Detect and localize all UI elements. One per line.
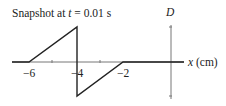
- chart-title: Snapshot at t = 0.01 s: [12, 7, 112, 20]
- x-tick-label-minus2: −2: [117, 67, 129, 79]
- wave-snapshot-diagram: Snapshot at t = 0.01 s D x (cm) −6 −4 −2: [0, 0, 226, 106]
- y-axis-label: D: [165, 6, 175, 18]
- x-axis-label: x (cm): [187, 56, 218, 69]
- x-tick-label-minus6: −6: [23, 67, 35, 79]
